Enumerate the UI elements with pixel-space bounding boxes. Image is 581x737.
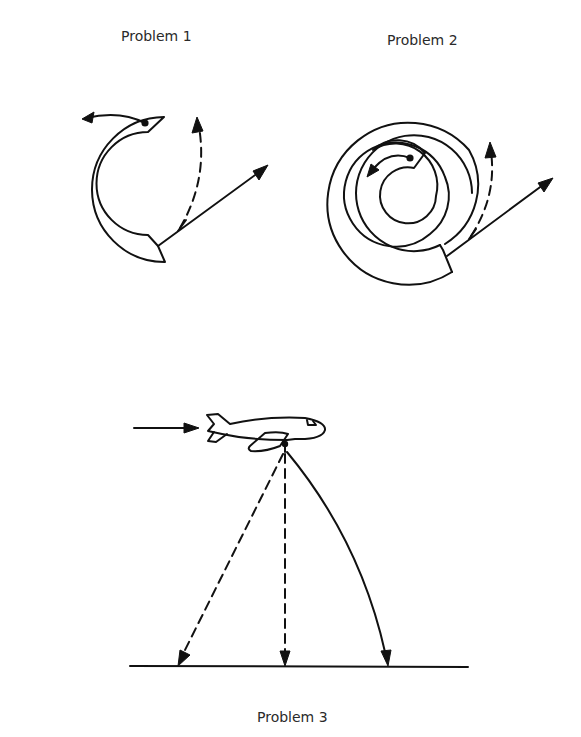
dashed-exit-arrowhead xyxy=(485,142,496,158)
ground-line xyxy=(130,666,468,667)
spiral-tube-inner-wall xyxy=(344,143,449,247)
spiral-tube-end-cap xyxy=(440,245,452,272)
dashed-vertical-arrowhead xyxy=(280,651,290,666)
problem-3-figure xyxy=(130,414,468,667)
airplane xyxy=(207,414,325,451)
dashed-curved-exit-path xyxy=(471,152,492,236)
problem-1-figure xyxy=(82,112,268,262)
spiral-path-arrow xyxy=(374,156,410,168)
problem-2-figure xyxy=(327,123,553,285)
tube-path-arrowhead xyxy=(82,112,94,123)
spiral-tube-middle xyxy=(356,135,472,251)
straight-exit-arrowhead xyxy=(538,178,553,192)
straight-exit-arrowhead xyxy=(253,165,268,180)
diagram-canvas xyxy=(0,0,581,737)
solid-forward-arrowhead xyxy=(381,650,391,666)
straight-exit-path xyxy=(447,182,547,256)
dashed-backward-path xyxy=(183,454,283,654)
dashed-curved-exit-path xyxy=(180,127,201,228)
dashed-backward-arrowhead xyxy=(178,650,190,666)
airplane-wing xyxy=(249,432,288,451)
c-tube xyxy=(92,117,165,262)
straight-exit-path xyxy=(158,170,262,246)
solid-forward-curved-path xyxy=(287,452,385,652)
dashed-exit-arrowhead xyxy=(192,117,203,133)
spiral-tube-outer xyxy=(327,123,478,285)
flight-direction-arrowhead xyxy=(184,423,199,433)
